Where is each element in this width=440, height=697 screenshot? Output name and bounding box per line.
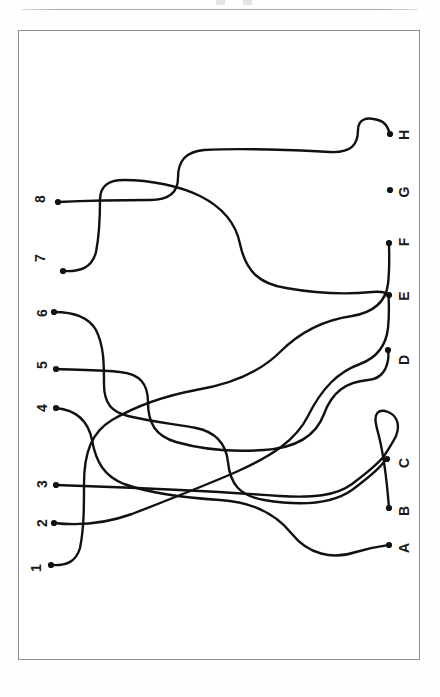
endpoint-label-6: 6	[35, 304, 49, 322]
endpoint-label-a: A	[397, 539, 411, 557]
scan-header-smudge-left	[216, 0, 225, 5]
endpoint-label-b: B	[397, 502, 411, 520]
endpoint-label-3: 3	[35, 475, 49, 493]
endpoint-label-1: 1	[29, 559, 43, 577]
endpoint-label-d: D	[397, 351, 411, 369]
endpoint-label-8: 8	[33, 190, 47, 208]
scan-header-smudge-right	[243, 0, 252, 5]
puzzle-frame	[18, 30, 420, 660]
scan-header-rule	[22, 9, 418, 10]
endpoint-label-7: 7	[33, 249, 47, 267]
scanned-page: 87654321 HGFEDCBA	[0, 0, 440, 697]
endpoint-label-2: 2	[35, 514, 49, 532]
endpoint-label-g: G	[397, 183, 411, 201]
endpoint-label-4: 4	[35, 399, 49, 417]
endpoint-label-5: 5	[35, 356, 49, 374]
endpoint-label-h: H	[397, 126, 411, 144]
endpoint-label-c: C	[397, 454, 411, 472]
endpoint-label-e: E	[397, 287, 411, 305]
endpoint-label-f: F	[397, 233, 411, 251]
